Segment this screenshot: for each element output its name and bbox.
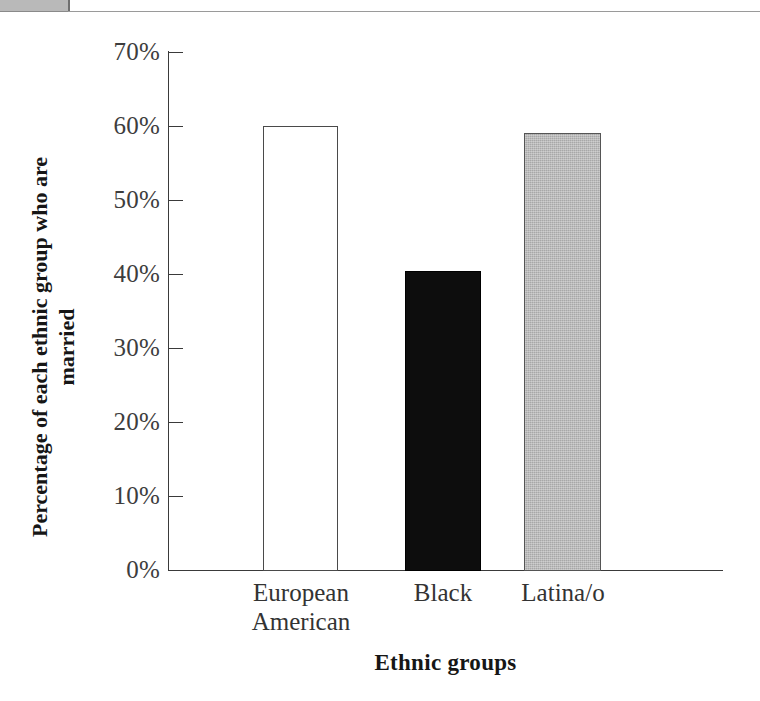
x-axis-label-line-2: American: [230, 607, 372, 636]
y-axis-tick-60: [168, 126, 183, 127]
y-axis-line: [168, 51, 169, 571]
x-axis-label-black: Black: [383, 578, 503, 607]
x-axis-title: Ethnic groups: [168, 650, 723, 676]
y-axis-tick-label-70: 70%: [60, 39, 160, 64]
y-axis-tick-20: [168, 422, 183, 423]
x-axis-label-european-american: European American: [230, 578, 372, 636]
x-axis-label-line-1: Black: [383, 578, 503, 607]
y-axis-tick-40: [168, 274, 183, 275]
y-axis-tick-30: [168, 348, 183, 349]
x-axis-label-line-1: Latina/o: [500, 578, 626, 607]
y-axis-tick-label-0: 0%: [60, 557, 160, 582]
bar-european-american: [263, 126, 338, 571]
y-axis-tick-50: [168, 200, 183, 201]
bar-black: [405, 271, 481, 571]
x-axis-label-latina-o: Latina/o: [500, 578, 626, 607]
x-axis-label-line-1: European: [230, 578, 372, 607]
y-axis-title: Percentage of each ethnic group who are …: [26, 137, 80, 557]
y-axis-tick-10: [168, 496, 183, 497]
y-axis-tick-label-60: 60%: [60, 113, 160, 138]
bar-latina-o: [524, 133, 601, 571]
bar-chart: 70% 60% 50% 40% 30% 20% 10% 0% European …: [0, 0, 760, 701]
y-axis-tick-70: [168, 52, 183, 53]
